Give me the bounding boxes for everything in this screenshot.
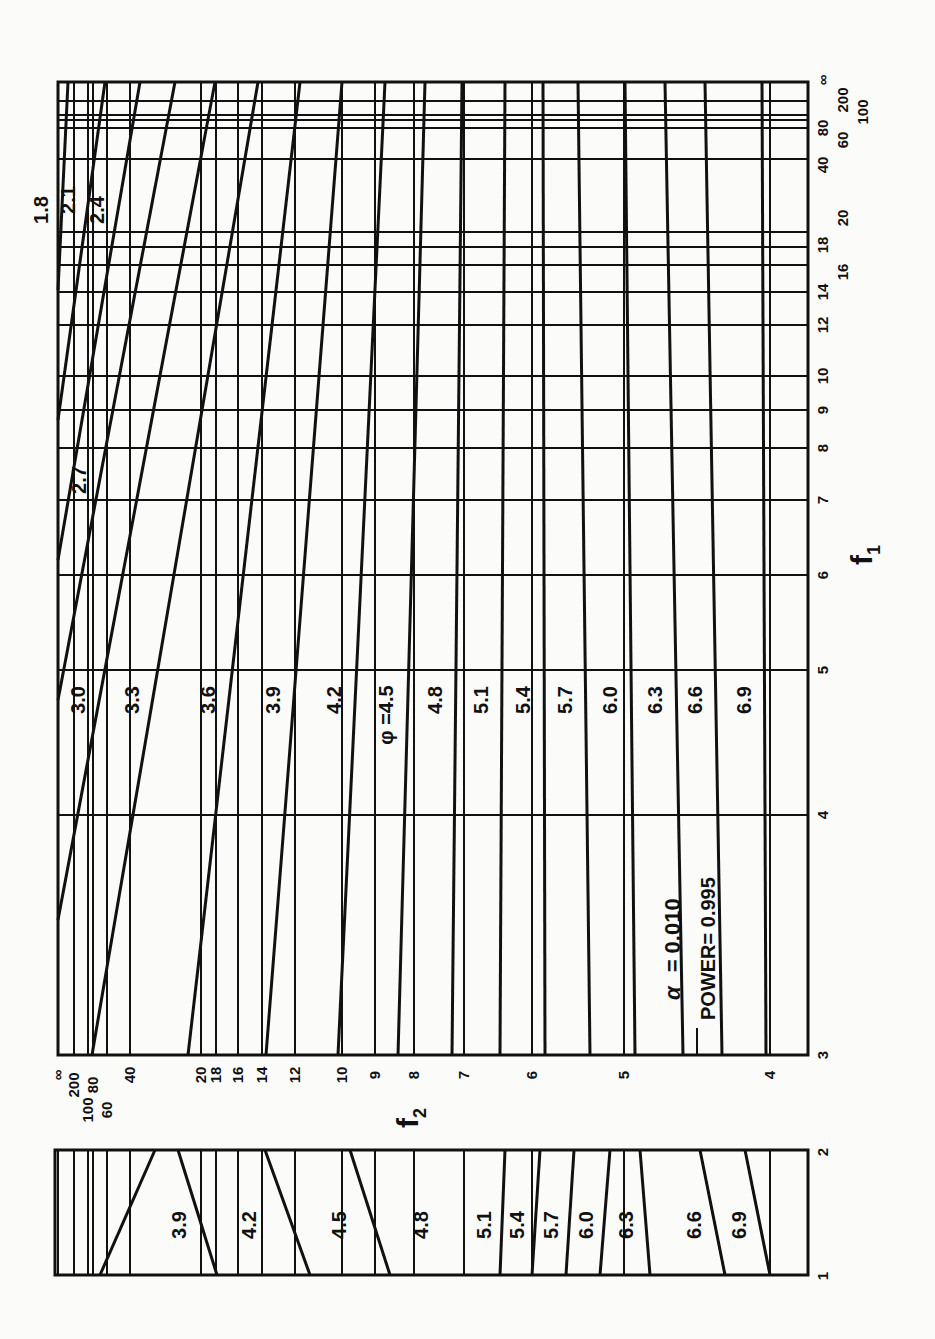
lower-phi-curve-label: 4.8 <box>410 1211 432 1239</box>
phi-curve-label: 2.1 <box>57 186 79 214</box>
f2-tick-label: 10 <box>333 1067 350 1084</box>
phi-curve <box>625 82 635 1055</box>
lower-f1-tick-label: 1 <box>814 1272 831 1280</box>
lower-phi-curve <box>350 1150 390 1275</box>
f1-axis-ticks: 3456789101214161820406080100200∞ <box>814 74 871 1059</box>
phi-curve <box>500 82 505 1055</box>
phi-curve-label: 5.7 <box>554 686 576 714</box>
phi-curve-label: 6.3 <box>644 686 666 714</box>
main-panel-frame <box>58 82 808 1055</box>
lower-phi-curve <box>100 1150 155 1275</box>
f1-tick-label: 5 <box>814 666 831 674</box>
phi-curve <box>92 82 258 1055</box>
power-chart: 1.82.12.42.73.03.33.63.94.2φ =4.54.85.15… <box>0 0 935 1339</box>
phi-curve-label: 6.9 <box>733 686 755 714</box>
f2-tick-label: 7 <box>455 1071 472 1079</box>
f2-tick-label: 4 <box>761 1070 778 1079</box>
f2-tick-label: 8 <box>405 1071 422 1079</box>
phi-curve-label: 5.1 <box>470 686 492 714</box>
lower-phi-curve <box>566 1150 574 1275</box>
f1-tick-label: 10 <box>814 368 831 385</box>
main-panel-grid <box>58 82 808 1055</box>
f1-tick-label: 40 <box>814 157 831 174</box>
f1-tick-label: 16 <box>834 264 851 281</box>
f2-tick-label: 5 <box>615 1071 632 1079</box>
phi-curve-label: 1.8 <box>30 196 52 224</box>
f2-tick-label: 14 <box>253 1066 270 1083</box>
f1-tick-label: 60 <box>834 132 851 149</box>
f2-tick-label: 100 <box>79 1097 96 1122</box>
f2-tick-label: 18 <box>207 1067 224 1084</box>
phi-curve-label: φ =4.5 <box>375 685 397 744</box>
lower-phi-curve <box>500 1150 505 1275</box>
lower-phi-curve <box>532 1150 540 1275</box>
lower-phi-curve-label: 6.6 <box>683 1211 705 1239</box>
phi-curve <box>762 82 766 1055</box>
phi-curve <box>398 82 425 1055</box>
power-label: POWER= 0.995 <box>697 877 719 1020</box>
phi-curve-label: 2.7 <box>68 466 90 494</box>
lower-phi-curve-label: 5.1 <box>473 1211 495 1239</box>
lower-f1-tick-label: 2 <box>814 1148 831 1156</box>
f2-tick-label: 12 <box>286 1067 303 1084</box>
f1-tick-label: 14 <box>814 283 831 300</box>
lower-phi-curve <box>640 1150 650 1275</box>
f2-tick-label: 200 <box>65 1072 82 1097</box>
lower-f1-ticks: 21 <box>814 1148 831 1280</box>
f2-tick-label: 40 <box>121 1067 138 1084</box>
f1-tick-label: 18 <box>814 237 831 254</box>
f1-tick-label: 12 <box>814 317 831 334</box>
f2-tick-label: 60 <box>98 1102 115 1119</box>
phi-curve <box>578 82 590 1055</box>
f1-tick-label: 80 <box>814 120 831 137</box>
phi-curve <box>543 82 545 1055</box>
lower-phi-curve-label: 3.9 <box>168 1211 190 1239</box>
phi-curve-label: 6.0 <box>599 686 621 714</box>
f2-tick-label: 80 <box>84 1077 101 1094</box>
f1-tick-label: 200 <box>834 87 851 112</box>
phi-curve <box>338 82 385 1055</box>
f1-tick-label: ∞ <box>814 74 831 85</box>
phi-curve-label: 5.4 <box>512 685 534 714</box>
lower-phi-curve-label: 6.9 <box>728 1211 750 1239</box>
lower-phi-curve-label: 6.0 <box>575 1211 597 1239</box>
f1-tick-label: 3 <box>814 1051 831 1059</box>
phi-curve <box>452 82 462 1055</box>
lower-phi-curve <box>265 1150 310 1275</box>
f1-tick-label: 9 <box>814 406 831 414</box>
f1-tick-label: 7 <box>814 496 831 504</box>
f1-tick-label: 8 <box>814 444 831 452</box>
lower-phi-curve-label: 6.3 <box>615 1211 637 1239</box>
f2-tick-label: 9 <box>366 1071 383 1079</box>
phi-curve-label: 4.2 <box>323 686 345 714</box>
f1-tick-label: 20 <box>834 210 851 227</box>
phi-curve <box>266 82 342 1055</box>
phi-curve-label: 6.6 <box>684 686 706 714</box>
lower-phi-curve-label: 5.4 <box>506 1210 528 1239</box>
f1-tick-label: 6 <box>814 571 831 579</box>
phi-curve-label: 4.8 <box>424 686 446 714</box>
f1-tick-label: 100 <box>854 99 871 124</box>
f2-axis-label: f2 <box>391 1108 430 1128</box>
lower-phi-curve-label: 4.2 <box>238 1211 260 1239</box>
f2-tick-label: 6 <box>523 1071 540 1079</box>
lower-phi-curve-label: 4.5 <box>328 1211 350 1239</box>
f2-tick-label: 16 <box>229 1067 246 1084</box>
lower-phi-curve <box>600 1150 610 1275</box>
f2-tick-label: ∞ <box>49 1069 66 1080</box>
f1-axis-label: f1 <box>845 545 884 565</box>
phi-curve-label: 3.0 <box>67 686 89 714</box>
phi-curve-label: 2.4 <box>86 195 108 224</box>
lower-phi-curve-label: 5.7 <box>540 1211 562 1239</box>
f1-tick-label: 4 <box>814 810 831 819</box>
phi-curve-label: 3.6 <box>197 686 219 714</box>
phi-curve-label: 3.3 <box>121 686 143 714</box>
phi-curve-label: 3.9 <box>262 686 284 714</box>
phi-curve <box>188 82 300 1055</box>
